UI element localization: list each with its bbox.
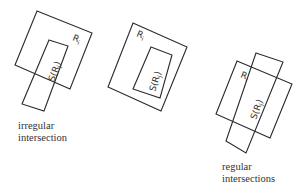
figure-regular-intersections: Ri S(Rj) regular intersections: [216, 53, 292, 184]
figure-contained: Ri S(Rj): [108, 23, 187, 111]
caption-line-2: intersections: [222, 173, 275, 184]
label-ri: Ri: [239, 70, 251, 83]
caption-line-2: intersection: [18, 132, 68, 143]
figure-irregular-intersection: Ri S(Rj) irregular intersection: [15, 11, 92, 143]
region-ri: [108, 23, 187, 111]
label-ri: Ri: [71, 33, 83, 46]
caption-line-1: regular: [222, 161, 252, 172]
label-s-rj: S(Rj): [46, 60, 64, 83]
region-s-rj: [22, 40, 68, 111]
label-ri: Ri: [135, 29, 147, 42]
caption-line-1: irregular: [18, 120, 55, 131]
intersection-diagram: Ri S(Rj) irregular intersection Ri S(Rj)…: [0, 0, 305, 188]
